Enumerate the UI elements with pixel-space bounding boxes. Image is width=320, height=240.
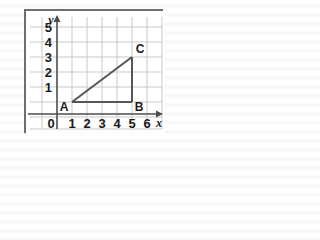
coordinate-graph: 5 4 3 2 1 0 1 2 3 4 5 6 y x A B C: [26, 11, 165, 135]
x-tick-label-6: 6: [143, 116, 150, 131]
origin-label-0: 0: [47, 116, 54, 131]
x-tick-label-3: 3: [98, 116, 105, 131]
y-tick-label-3: 3: [45, 50, 52, 65]
x-axis-name-label: x: [155, 116, 162, 130]
x-tick-label-4: 4: [113, 116, 121, 131]
x-tick-label-2: 2: [83, 116, 90, 131]
coordinate-plot-area: 5 4 3 2 1 0 1 2 3 4 5 6 y x A B C: [26, 11, 165, 135]
x-tick-label-1: 1: [68, 116, 75, 131]
y-tick-label-2: 2: [45, 65, 52, 80]
vertex-label-b: B: [135, 100, 144, 114]
y-tick-label-4: 4: [45, 35, 53, 50]
y-axis-name-label: y: [46, 13, 54, 27]
figure-frame: 5 4 3 2 1 0 1 2 3 4 5 6 y x A B C: [24, 9, 163, 133]
vertex-label-a: A: [60, 100, 69, 114]
y-tick-label-1: 1: [45, 80, 52, 95]
vertex-label-c: C: [136, 42, 145, 56]
x-tick-label-5: 5: [128, 116, 135, 131]
y-axis-tick-labels: 5 4 3 2 1: [45, 20, 53, 95]
